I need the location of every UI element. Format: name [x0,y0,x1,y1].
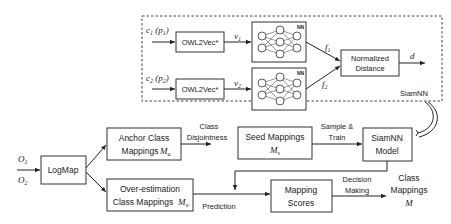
siamnn-panel-label: SiamNN [400,89,428,98]
svg-text:Mappings: Mappings [122,146,159,156]
feature-f1-label: f1 [325,42,331,53]
svg-text:OWL2Vec*: OWL2Vec* [182,38,219,47]
svg-text:Class: Class [398,173,419,183]
siamnn-model-box: SiamNN Model [363,128,412,161]
svg-text:Model: Model [375,146,398,156]
overestimation-class-mappings-box: Over-estimation Class Mappings Mo [107,179,193,211]
siamnn-pipeline-diagram: SiamNN c1 (p1) c2 (p2) OWL2Vec* OWL2Vec*… [0,0,451,224]
svg-text:c2 (p2): c2 (p2) [146,73,169,84]
edge-label-train: Train [329,133,346,142]
vector-v1-label: v1 [234,31,241,42]
mapping-scores-box: Mapping Scores [271,180,332,212]
edge-label-sample: Sample & [321,122,354,131]
svg-text:Anchor Class: Anchor Class [119,133,170,143]
input-o2-label: O2 [18,175,28,186]
svg-text:NN: NN [297,24,305,30]
edge-label-prediction: Prediction [202,202,235,211]
panel-to-model-link-icon [416,102,433,136]
arrow-logmap-to-anchor [86,145,106,168]
owl2vec-encoder-2: OWL2Vec* [176,79,224,99]
svg-text:Class Mappings: Class Mappings [113,197,173,207]
normalized-distance-box: Normalized Distance [341,50,399,76]
anchor-class-mappings-box: Anchor Class Mappings Ma [107,128,181,160]
input-o1-label: O1 [18,154,28,165]
svg-text:OWL2Vec*: OWL2Vec* [182,85,219,94]
input-c2-p2: c2 (p2) [146,73,169,84]
svg-text:SiamNN: SiamNN [371,133,403,143]
output-class-mappings: Class Mappings M [391,173,428,208]
arrow-logmap-to-overestimation [86,172,106,192]
logmap-box: LogMap [41,156,86,184]
input-c1-p1: c1 (p1) [146,25,169,36]
feature-f2-label: f2 [322,79,328,90]
edge-label-disjointness: Disjointness [187,133,228,142]
svg-text:LogMap: LogMap [48,165,79,175]
svg-text:Distance: Distance [355,64,384,73]
svg-text:Mapping: Mapping [285,185,318,195]
owl2vec-encoder-1: OWL2Vec* [176,32,224,52]
arrow-f1 [306,42,340,61]
svg-text:c1 (p1): c1 (p1) [146,25,169,36]
svg-text:Scores: Scores [288,198,314,208]
neural-network-2: NN [252,68,306,110]
seed-mappings-box: Seed Mappings Ms [238,127,312,159]
edge-label-decision: Decision [343,175,372,184]
svg-text:Seed Mappings: Seed Mappings [245,132,304,142]
svg-text:M: M [404,198,413,208]
output-d-label: d [410,51,415,61]
vector-v2-label: v2 [234,78,241,89]
svg-text:NN: NN [297,70,305,76]
neural-network-1: NN [252,22,306,62]
edge-label-making: Making [345,186,369,195]
svg-text:Over-estimation: Over-estimation [120,184,180,194]
svg-text:Normalized: Normalized [351,54,389,63]
edge-label-class: Class [200,122,219,131]
svg-text:Mappings: Mappings [391,185,428,195]
